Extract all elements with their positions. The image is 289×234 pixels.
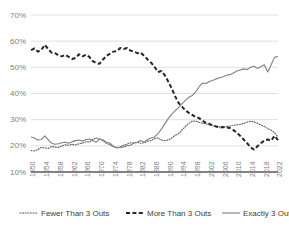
plot-series [31,45,278,151]
gridlines [31,15,278,172]
x-axis-tick-label: 1954 [43,161,50,177]
y-axis-tick-label: 10% [10,168,26,177]
x-axis-tick-label: 2022 [276,161,283,177]
legend-item-label[interactable]: More Than 3 Outs [147,209,211,218]
x-axis-tick-label: 2006 [222,161,229,177]
x-axis-tick-label: 1970 [98,161,105,177]
x-axis-tick-label: 1974 [112,161,119,177]
x-axis-tick-label: 1990 [167,161,174,177]
x-axis-tick-label: 2014 [249,161,256,177]
series-line-more-than-3-outs [31,45,278,150]
x-axis-tick-label: 2018 [263,161,270,177]
y-axis-tick-label: 50% [10,63,26,72]
x-axis-tick-label: 1958 [57,161,64,177]
x-axis-tick-label: 1994 [180,161,187,177]
y-axis-tick-label: 30% [10,115,26,124]
legend-item-label[interactable]: Fewer Than 3 Outs [41,209,109,218]
x-axis-tick-label: 1962 [71,161,78,177]
x-axis-tick-label: 1966 [84,161,91,177]
series-line-exactly-3-outs [31,56,278,148]
x-axis-tick-label: 1998 [194,161,201,177]
y-axis-tick-label: 70% [10,11,26,20]
x-axis-tick-label: 1950 [29,161,36,177]
chart-legend: Fewer Than 3 OutsMore Than 3 OutsExactly… [20,209,289,218]
y-axis-tick-label: 60% [10,37,26,46]
y-axis-ticks: 70%60%50%40%30%20%10% [10,11,26,177]
y-axis-tick-label: 40% [10,89,26,98]
x-axis-tick-label: 2010 [235,161,242,177]
x-axis-tick-label: 1978 [126,161,133,177]
x-axis-tick-label: 2002 [208,161,215,177]
x-axis-tick-label: 1986 [153,161,160,177]
line-chart: 70%60%50%40%30%20%10% 195019541958196219… [0,0,289,234]
x-axis-ticks: 1950195419581962196619701974197819821986… [29,161,283,177]
y-axis-tick-label: 20% [10,141,26,150]
x-axis-tick-label: 1982 [139,161,146,177]
chart-canvas: 70%60%50%40%30%20%10% 195019541958196219… [0,0,289,234]
legend-item-label[interactable]: Exactly 3 Outs [243,209,289,218]
